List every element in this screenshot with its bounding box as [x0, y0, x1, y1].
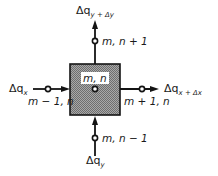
- left-node-label: m − 1, n: [28, 96, 74, 107]
- bottom-flux-symbol: Δq: [86, 154, 101, 167]
- left-flux-arrow: [33, 86, 70, 92]
- node-left-icon: [45, 86, 50, 91]
- right-flux-subscript: x + Δx: [179, 89, 202, 97]
- node-bottom-icon: [92, 135, 97, 140]
- top-flux-symbol: Δq: [76, 4, 91, 17]
- right-flux-label: Δqx + Δx: [164, 83, 202, 97]
- center-node-label: m, n: [81, 72, 109, 84]
- right-flux-symbol: Δq: [164, 82, 179, 95]
- node-top-icon: [92, 38, 97, 43]
- node-right-icon: [139, 86, 144, 91]
- bottom-node-label: m, n − 1: [102, 133, 148, 144]
- bottom-flux-label: Δqy: [86, 155, 105, 169]
- top-flux-subscript: y + Δy: [91, 11, 114, 19]
- left-flux-symbol: Δq: [9, 82, 24, 95]
- right-node-label: m + 1, n: [124, 96, 170, 107]
- left-flux-label: Δqx: [9, 83, 28, 97]
- bottom-flux-subscript: y: [101, 161, 105, 169]
- node-center-icon: [92, 86, 97, 91]
- left-flux-subscript: x: [24, 89, 28, 97]
- top-node-label: m, n + 1: [102, 36, 148, 47]
- top-flux-label: Δqy + Δy: [76, 5, 114, 19]
